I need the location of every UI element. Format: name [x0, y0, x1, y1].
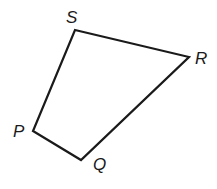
vertex-label-p: P	[13, 122, 25, 141]
quadrilateral-diagram: S R Q P	[0, 0, 217, 189]
quadrilateral-pqrs	[33, 30, 189, 160]
vertex-label-s: S	[66, 8, 78, 27]
vertex-label-r: R	[195, 49, 207, 68]
vertex-label-q: Q	[93, 155, 106, 174]
